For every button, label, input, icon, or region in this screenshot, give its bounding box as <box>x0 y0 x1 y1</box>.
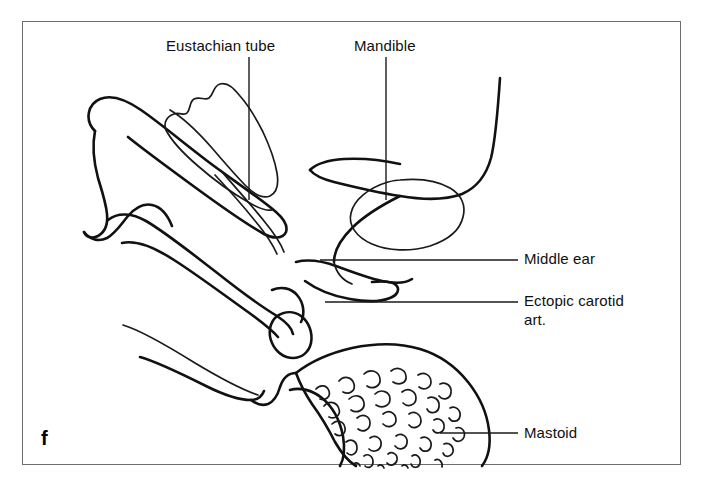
label-ectopic-carotid-art: Ectopic carotidart. <box>524 291 624 329</box>
figure-panel: Eustachian tube Mandible Middle ear Ecto… <box>0 0 706 488</box>
label-mandible: Mandible <box>354 36 416 55</box>
middle-ear-cavity <box>296 261 412 302</box>
leader-lines <box>249 57 518 433</box>
label-eustachian-tube: Eustachian tube <box>166 36 275 55</box>
mastoid-outline <box>290 344 490 466</box>
panel-letter: f <box>41 427 48 450</box>
anatomy-diagram <box>0 0 706 488</box>
eustachian-tube-structure <box>165 84 278 211</box>
label-ectopic-carotid-line1: Ectopic carotid <box>524 292 624 309</box>
label-ectopic-carotid-line2: art. <box>524 311 546 328</box>
label-mastoid: Mastoid <box>524 423 577 442</box>
ectopic-carotid-artery <box>270 288 312 358</box>
label-middle-ear: Middle ear <box>524 249 595 268</box>
mandible-structure <box>310 78 500 284</box>
